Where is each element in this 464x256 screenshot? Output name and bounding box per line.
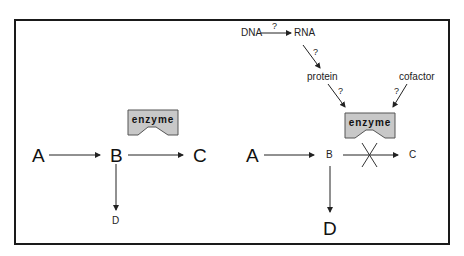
- diagram-arrows: [0, 0, 464, 256]
- dna-label: DNA: [241, 28, 262, 38]
- question-dna-rna: ?: [272, 22, 277, 31]
- node-d-left: D: [112, 216, 119, 226]
- question-cofactor-enzyme: ?: [394, 87, 399, 96]
- node-b-right: B: [326, 150, 333, 160]
- question-protein-enzyme: ?: [338, 87, 343, 96]
- question-rna-protein: ?: [313, 48, 318, 57]
- node-b-left: B: [110, 146, 123, 165]
- enzyme-label-right: enzyme: [345, 118, 395, 128]
- cofactor-label: cofactor: [399, 72, 435, 82]
- node-d-right: D: [323, 219, 337, 238]
- node-a-left: A: [32, 146, 45, 165]
- node-c-left: C: [193, 146, 207, 165]
- node-c-right: C: [409, 150, 416, 160]
- protein-label: protein: [307, 72, 338, 82]
- rna-label: RNA: [294, 28, 315, 38]
- node-a-right: A: [246, 146, 259, 165]
- enzyme-label-left: enzyme: [128, 115, 178, 125]
